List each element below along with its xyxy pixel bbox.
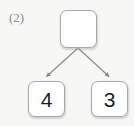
node-box-part-right[interactable]: 3 (91, 81, 128, 117)
node-box-total[interactable] (60, 10, 97, 48)
problem-number-label: (2) (9, 10, 24, 25)
number-bond-diagram: (2) 4 3 (0, 0, 134, 126)
node-value-part-left: 4 (41, 89, 53, 110)
node-box-part-left[interactable]: 4 (28, 81, 65, 117)
node-value-part-right: 3 (104, 89, 116, 110)
edge-top-to-left (47, 49, 78, 77)
edge-top-to-right (79, 49, 110, 77)
